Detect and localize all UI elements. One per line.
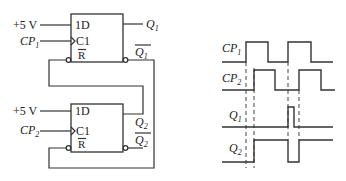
ff2-supply-label: +5 V [13,104,38,118]
ff2-d-pin: 1D [75,104,90,118]
ff2-clock-label: CP2 [20,123,39,139]
ff2-r-pin: R [78,138,86,150]
timing-diagram: CP1 CP2 Q1 Q2 [222,41,335,168]
ff1-r-pin: R [78,49,86,61]
timing-label-cp1: CP1 [222,41,241,57]
ff1-q-label: Q1 [146,17,159,33]
ff2-qbar-label: Q2 [135,133,148,149]
flip-flop-1: +5 V 1D CP1 C1 R Q1 Q1 [13,14,159,62]
ff1-clock-label: CP1 [20,34,39,50]
ff2-qbar-bubble-icon [123,146,128,151]
ff2-q-label: Q2 [135,115,148,131]
ff1-qbar-label: Q1 [135,45,148,61]
ff1-supply-label: +5 V [13,18,38,32]
ff1-d-pin: 1D [75,18,90,32]
timing-label-cp2: CP2 [222,71,241,87]
ff1-qbar-bubble-icon [123,58,128,63]
ff2-c-pin: C1 [76,124,90,138]
ff2-reset-bubble-icon [66,146,71,151]
timing-label-q2: Q2 [229,141,242,157]
timing-label-q1: Q1 [229,108,242,124]
diagram-canvas: +5 V 1D CP1 C1 R Q1 Q1 +5 V 1D CP2 C1 R … [0,0,346,181]
ff1-reset-bubble-icon [66,58,71,63]
ff1-c-pin: C1 [76,34,90,48]
flip-flop-2: +5 V 1D CP2 C1 R Q2 Q2 [13,104,151,152]
